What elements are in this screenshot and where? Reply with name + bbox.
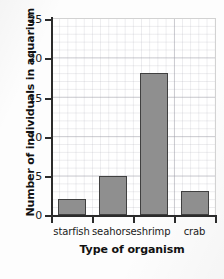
x-tick-mark-1 bbox=[92, 216, 94, 223]
x-tick-label-crab: crab bbox=[174, 226, 215, 237]
x-tick-label-shrimp: shrimp bbox=[133, 226, 174, 237]
bar-chart-figure: 25 20 15 10 5 0 starfish seahorse shrimp… bbox=[0, 0, 224, 279]
bar-shrimp bbox=[140, 73, 168, 215]
y-tick-mark-15 bbox=[45, 98, 52, 100]
x-tick-mark-3 bbox=[174, 216, 176, 223]
x-tick-mark-2 bbox=[133, 216, 135, 223]
x-tick-mark-0 bbox=[51, 216, 53, 223]
y-axis-title: Number of individuals in aquarium bbox=[24, 17, 37, 217]
x-tick-label-starfish: starfish bbox=[51, 226, 92, 237]
bar-starfish bbox=[58, 199, 86, 215]
bar-seahorse bbox=[99, 176, 127, 215]
plot-area bbox=[52, 18, 216, 215]
bar-crab bbox=[181, 191, 209, 215]
y-axis-line bbox=[51, 17, 53, 216]
y-tick-mark-5 bbox=[45, 176, 52, 178]
x-tick-mark-4 bbox=[215, 216, 217, 223]
y-tick-mark-25 bbox=[45, 19, 52, 21]
y-tick-mark-10 bbox=[45, 137, 52, 139]
x-tick-label-seahorse: seahorse bbox=[92, 226, 133, 237]
x-axis-title: Type of organism bbox=[40, 243, 224, 256]
y-tick-mark-20 bbox=[45, 58, 52, 60]
